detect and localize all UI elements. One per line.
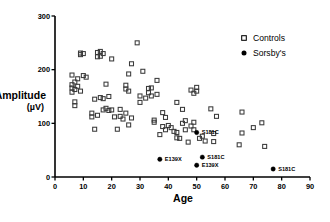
y-tick-label: 300 [38,12,50,21]
y-tick-label: 200 [38,65,50,74]
legend-label: Sorsby's [253,48,286,58]
x-tick-label: 10 [79,182,87,191]
data-point-annotation: S181C [207,154,224,160]
x-tick-label: 40 [164,182,172,191]
scatter-chart: 0100200300 0102030405060708090 Amplitude… [0,0,330,222]
y-axis-units-label: (µV) [27,102,44,112]
x-axis-title: Age [173,192,193,204]
data-point-sorsbys [194,163,198,167]
data-point-annotation: E139X [165,156,182,162]
data-point-sorsbys [158,157,162,161]
x-tick-label: 90 [306,182,314,191]
x-tick-label: 20 [108,182,116,191]
x-tick-label: 80 [278,182,286,191]
legend-marker-sorsbys [242,51,247,56]
y-tick-label: 0 [46,173,50,182]
x-tick-label: 0 [53,182,57,191]
x-tick-label: 70 [249,182,257,191]
data-point-sorsbys [271,167,275,171]
legend-label: Controls [253,33,285,43]
x-tick-label: 30 [136,182,144,191]
data-point-annotation: S181C [202,129,219,135]
y-axis-title: Amplitude [0,89,46,101]
y-tick-label: 100 [38,119,50,128]
data-point-sorsbys [200,155,204,159]
x-tick-label: 60 [221,182,229,191]
data-point-annotation: E139X [202,162,219,168]
data-point-sorsbys [194,130,198,134]
data-point-annotation: S181C [278,166,295,172]
x-tick-label: 50 [193,182,201,191]
